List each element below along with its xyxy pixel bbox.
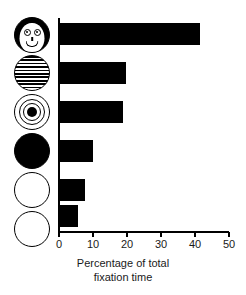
x-tick-label-50: 50: [217, 238, 241, 251]
bar-black-disc: [59, 140, 93, 162]
x-axis-line: [58, 231, 229, 233]
x-tick-10: [92, 232, 94, 237]
x-tick-0: [58, 232, 60, 237]
bar-white-disc: [59, 179, 85, 201]
x-tick-40: [194, 232, 196, 237]
bar-bullseye: [59, 101, 123, 123]
bar-newsprint: [59, 62, 126, 84]
x-tick-label-10: 10: [81, 238, 105, 251]
x-tick-label-20: 20: [115, 238, 139, 251]
x-axis-label-line-1: Percentage of total: [77, 257, 169, 269]
bar-face: [59, 23, 200, 45]
x-tick-20: [126, 232, 128, 237]
x-tick-label-0: 0: [47, 238, 71, 251]
x-tick-label-30: 30: [149, 238, 173, 251]
x-axis-label-line-2: fixation time: [0, 270, 246, 284]
bar-plain-disc: [59, 205, 78, 227]
x-tick-30: [160, 232, 162, 237]
x-axis-label: Percentage of total fixation time: [0, 256, 246, 284]
x-tick-50: [228, 232, 230, 237]
plot-area: 01020304050: [0, 0, 246, 295]
x-tick-label-40: 40: [183, 238, 207, 251]
fixation-time-bar-chart: 01020304050 Percentage of total fixation…: [0, 0, 246, 295]
